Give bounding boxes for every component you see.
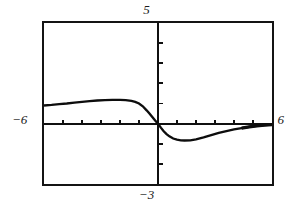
y-min-label: −3 xyxy=(0,187,293,203)
function-curve-tail xyxy=(242,125,272,128)
plot-area xyxy=(44,23,272,184)
graphing-calculator-screen: 5 −3 −6 6 xyxy=(0,0,293,204)
plot-frame xyxy=(42,21,274,186)
x-max-label: 6 xyxy=(278,112,285,128)
x-min-label: −6 xyxy=(12,112,27,128)
y-max-label: 5 xyxy=(0,2,293,18)
